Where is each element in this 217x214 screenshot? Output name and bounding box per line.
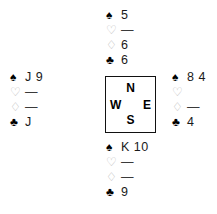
suit-row-spade: ♠K 10 (106, 140, 149, 155)
suit-row-diamond: ♢— (106, 170, 149, 185)
club-icon: ♣ (106, 53, 117, 68)
club-icon: ♣ (106, 185, 117, 200)
suit-row-diamond: ♢— (10, 100, 43, 115)
suit-row-club: ♣9 (106, 185, 149, 200)
suit-row-heart: ♡— (106, 155, 149, 170)
card-values-diamond: — (187, 100, 200, 115)
hand-south: ♠K 10 ♡— ♢— ♣9 (106, 140, 149, 200)
heart-icon: ♡ (10, 85, 21, 100)
suit-row-club: ♣4 (172, 115, 206, 130)
suit-row-spade: ♠8 4 (172, 70, 206, 85)
suit-row-spade: ♠5 (106, 8, 134, 23)
card-values-club: J (25, 115, 32, 130)
suit-row-diamond: ♢— (172, 100, 206, 115)
diamond-icon: ♢ (172, 100, 183, 115)
card-values-spade: K 10 (121, 140, 149, 155)
suit-row-club: ♣J (10, 115, 43, 130)
card-values-diamond: — (25, 100, 38, 115)
card-values-heart: — (121, 155, 134, 170)
diamond-icon: ♢ (106, 38, 117, 53)
card-values-club: 4 (187, 115, 194, 130)
card-values-club: 9 (121, 185, 128, 200)
suit-row-heart: ♡— (10, 85, 43, 100)
card-values-spade: 5 (121, 8, 128, 23)
hand-east: ♠8 4 ♡ ♢— ♣4 (172, 70, 206, 130)
hand-north: ♠5 ♡— ♢6 ♣6 (106, 8, 134, 68)
suit-row-heart: ♡— (106, 23, 134, 38)
compass-label-south: S (106, 114, 155, 126)
card-values-spade: J 9 (25, 70, 43, 85)
diamond-icon: ♢ (106, 170, 117, 185)
spade-icon: ♠ (106, 140, 117, 155)
card-values-diamond: 6 (121, 38, 128, 53)
club-icon: ♣ (172, 115, 183, 130)
heart-icon: ♡ (106, 155, 117, 170)
bridge-deal-diagram: ♠5 ♡— ♢6 ♣6 ♠J 9 ♡— ♢— ♣J ♠8 4 ♡ (0, 0, 217, 214)
compass-label-east: E (143, 99, 151, 111)
card-values-heart: — (121, 23, 134, 38)
suit-row-heart: ♡ (172, 85, 206, 100)
heart-icon: ♡ (106, 23, 117, 38)
spade-icon: ♠ (10, 70, 21, 85)
club-icon: ♣ (10, 115, 21, 130)
card-values-heart: — (25, 85, 38, 100)
card-values-club: 6 (121, 53, 128, 68)
suit-row-club: ♣6 (106, 53, 134, 68)
spade-icon: ♠ (172, 70, 183, 85)
spade-icon: ♠ (106, 8, 117, 23)
card-values-spade: 8 4 (187, 70, 206, 85)
compass-label-north: N (106, 82, 155, 94)
card-values-diamond: — (121, 170, 134, 185)
heart-icon: ♡ (172, 85, 183, 100)
suit-row-diamond: ♢6 (106, 38, 134, 53)
hand-west: ♠J 9 ♡— ♢— ♣J (10, 70, 43, 130)
suit-row-spade: ♠J 9 (10, 70, 43, 85)
compass-box: N W E S (105, 76, 156, 133)
compass-label-west: W (110, 99, 121, 111)
diamond-icon: ♢ (10, 100, 21, 115)
